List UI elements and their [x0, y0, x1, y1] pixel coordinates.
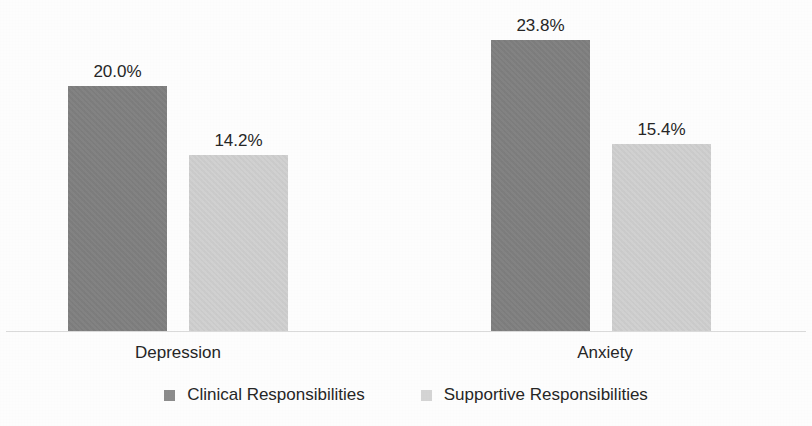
plot-area: 20.0% 14.2% 23.8% 15.4% Depression Anxie…: [0, 0, 812, 426]
bar-anxiety-supportive[interactable]: [612, 144, 711, 331]
value-label-anxiety-supportive: 15.4%: [612, 121, 711, 138]
bar-depression-supportive[interactable]: [189, 155, 288, 331]
category-label-anxiety: Anxiety: [505, 344, 705, 361]
bar-depression-clinical[interactable]: [68, 86, 167, 331]
legend-label-supportive: Supportive Responsibilities: [444, 386, 648, 403]
legend-item-clinical[interactable]: Clinical Responsibilities: [164, 386, 365, 403]
chart-page: 20.0% 14.2% 23.8% 15.4% Depression Anxie…: [0, 0, 812, 426]
value-label-anxiety-clinical: 23.8%: [491, 17, 590, 34]
legend-swatch-icon-supportive: [421, 390, 432, 401]
value-label-depression-supportive: 14.2%: [189, 132, 288, 149]
category-axis-line: [6, 331, 806, 332]
chart-legend: Clinical Responsibilities Supportive Res…: [0, 386, 812, 403]
value-label-depression-clinical: 20.0%: [68, 63, 167, 80]
legend-item-supportive[interactable]: Supportive Responsibilities: [421, 386, 648, 403]
category-label-depression: Depression: [78, 344, 278, 361]
legend-label-clinical: Clinical Responsibilities: [187, 386, 365, 403]
bar-anxiety-clinical[interactable]: [491, 40, 590, 331]
legend-swatch-icon-clinical: [164, 390, 175, 401]
